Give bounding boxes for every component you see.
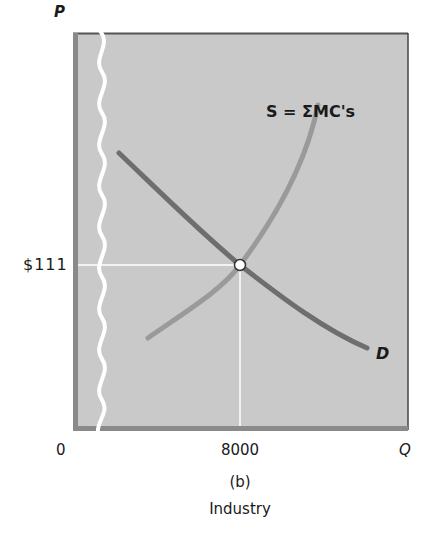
equilibrium-point	[235, 260, 246, 271]
quantity-axis	[73, 426, 408, 431]
x-axis-label: Q	[399, 443, 411, 458]
demand-curve-label: D	[376, 346, 389, 362]
price-axis	[73, 33, 78, 431]
origin-label: 0	[56, 443, 66, 458]
supply-curve-label: S = ΣMC's	[266, 104, 355, 120]
y-axis-label: P	[54, 5, 65, 20]
price-tick-label: $111	[23, 257, 68, 273]
chart-caption: Industry	[209, 502, 271, 517]
panel-label: (b)	[229, 475, 250, 490]
quantity-tick-label: 8000	[221, 443, 259, 458]
